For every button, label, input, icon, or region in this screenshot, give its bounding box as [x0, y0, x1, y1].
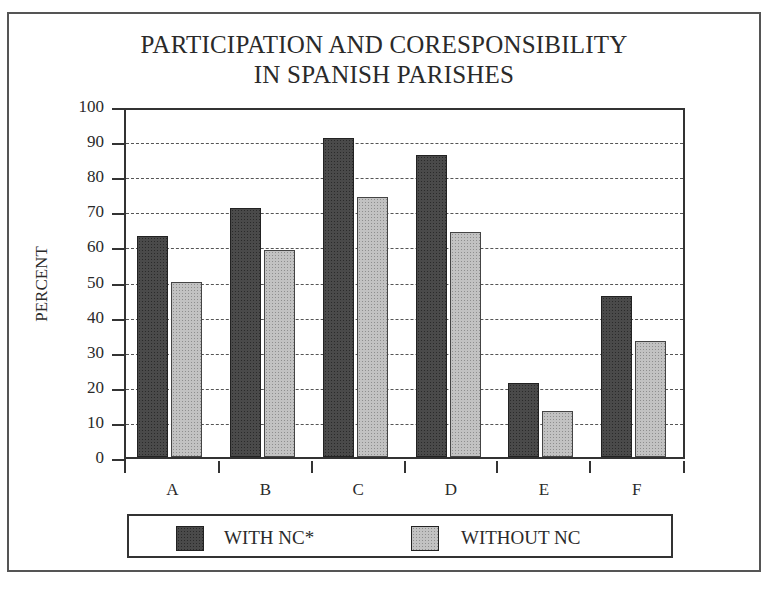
- x-tick-label: D: [405, 480, 498, 500]
- y-tick: [112, 178, 126, 180]
- bar-b-without-nc: [264, 250, 295, 457]
- legend-swatch-with-nc: [176, 526, 204, 551]
- bar-c-without-nc: [357, 197, 388, 457]
- x-tick-label: C: [312, 480, 405, 500]
- gridline: [126, 248, 683, 249]
- y-tick: [112, 354, 126, 356]
- bar-e-with-nc: [508, 383, 539, 457]
- y-tick-label: 100: [44, 98, 104, 116]
- x-tick-label: F: [590, 480, 683, 500]
- y-tick: [112, 143, 126, 145]
- chart-title: PARTICIPATION AND CORESPONSIBILITY IN SP…: [0, 30, 768, 90]
- x-tick-label: A: [126, 480, 219, 500]
- gridline: [126, 389, 683, 390]
- y-tick-label: 10: [44, 414, 104, 432]
- y-tick: [112, 424, 126, 426]
- chart-title-line-1: PARTICIPATION AND CORESPONSIBILITY: [0, 30, 768, 60]
- y-tick-label: 20: [44, 379, 104, 397]
- gridline: [126, 143, 683, 144]
- bar-b-with-nc: [230, 208, 261, 457]
- x-tick: [311, 461, 313, 473]
- y-tick: [112, 319, 126, 321]
- gridline: [126, 319, 683, 320]
- bar-d-without-nc: [450, 232, 481, 457]
- chart-title-line-2: IN SPANISH PARISHES: [0, 60, 768, 90]
- x-tick: [124, 461, 126, 473]
- y-tick-label: 90: [44, 133, 104, 151]
- y-tick: [112, 284, 126, 286]
- y-tick-label: 80: [44, 168, 104, 186]
- bar-c-with-nc: [323, 138, 354, 457]
- gridline: [126, 213, 683, 214]
- bar-a-without-nc: [171, 282, 202, 458]
- x-tick-label: E: [497, 480, 590, 500]
- y-tick-label: 0: [44, 449, 104, 467]
- y-tick: [112, 248, 126, 250]
- bar-f-without-nc: [635, 341, 666, 457]
- gridline: [126, 284, 683, 285]
- gridline: [126, 424, 683, 425]
- gridline: [126, 354, 683, 355]
- plot-area: [124, 108, 685, 459]
- gridline: [126, 178, 683, 179]
- y-tick: [112, 213, 126, 215]
- x-tick: [496, 461, 498, 473]
- legend: WITH NC* WITHOUT NC: [127, 514, 673, 558]
- legend-swatch-without-nc: [411, 526, 439, 551]
- y-tick: [112, 108, 126, 110]
- bar-a-with-nc: [137, 236, 168, 457]
- x-tick: [683, 461, 685, 473]
- y-tick-label: 70: [44, 203, 104, 221]
- y-tick-label: 50: [44, 274, 104, 292]
- bar-f-with-nc: [601, 296, 632, 457]
- legend-label-with-nc: WITH NC*: [224, 526, 314, 550]
- bar-e-without-nc: [542, 411, 573, 457]
- y-tick-label: 30: [44, 344, 104, 362]
- bar-d-with-nc: [416, 155, 447, 457]
- x-tick: [589, 461, 591, 473]
- legend-label-without-nc: WITHOUT NC: [461, 526, 580, 550]
- y-tick-label: 40: [44, 309, 104, 327]
- x-tick: [218, 461, 220, 473]
- y-tick: [112, 389, 126, 391]
- y-tick-label: 60: [44, 238, 104, 256]
- x-tick-label: B: [219, 480, 312, 500]
- x-tick: [404, 461, 406, 473]
